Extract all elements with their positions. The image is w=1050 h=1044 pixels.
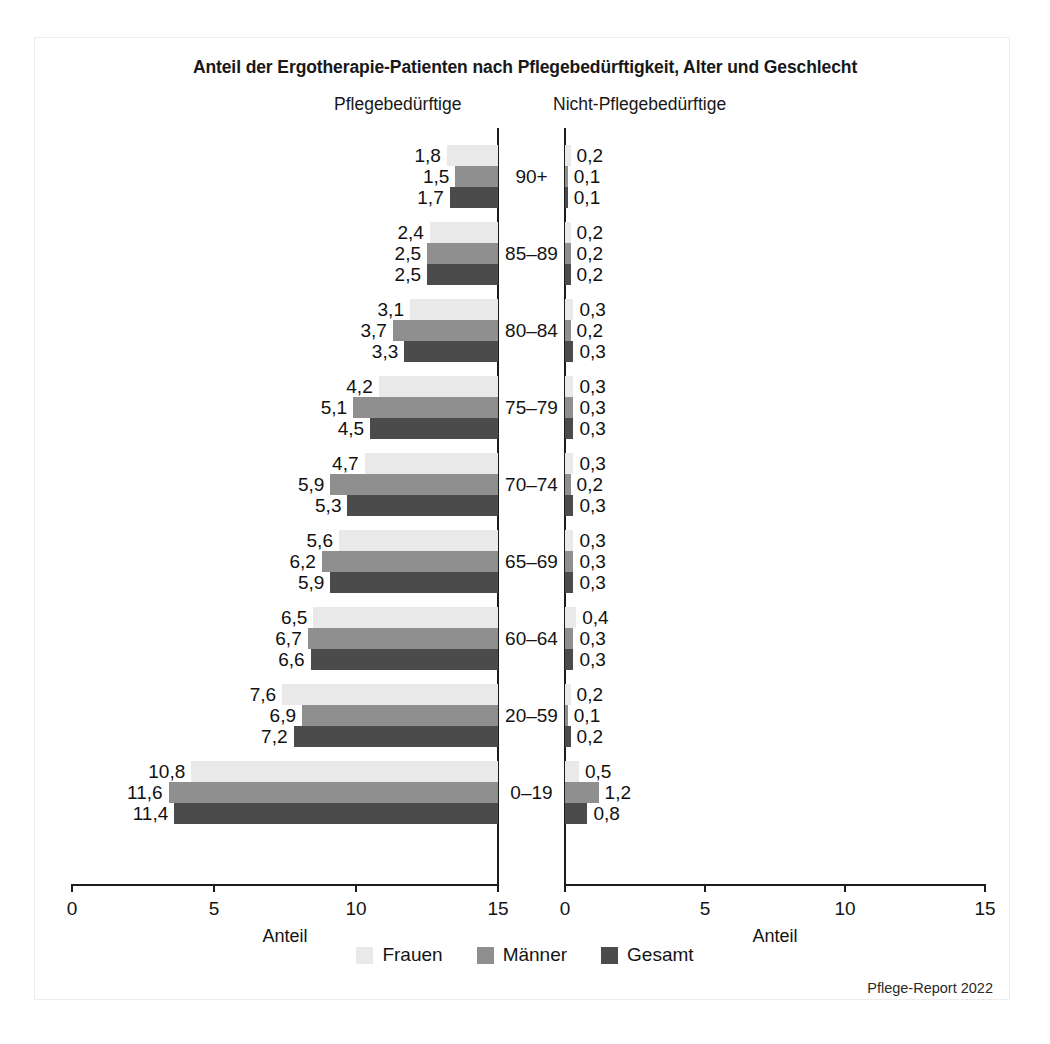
bar-nicht-pflegebeduerftige-maenner-7579 bbox=[565, 397, 573, 418]
bar-pflegebeduerftige-maenner-7579 bbox=[353, 397, 498, 418]
bar-value-label-pflegebeduerftige-frauen-2059: 7,6 bbox=[206, 684, 276, 705]
bar-nicht-pflegebeduerftige-frauen-6569 bbox=[565, 530, 573, 551]
bar-value-label-pflegebeduerftige-frauen-7074: 4,7 bbox=[289, 453, 359, 474]
bar-pflegebeduerftige-frauen-8589 bbox=[430, 222, 498, 243]
legend-label-maenner: Männer bbox=[503, 944, 567, 966]
bar-nicht-pflegebeduerftige-maenner-7074 bbox=[565, 474, 571, 495]
legend-item-frauen: Frauen bbox=[356, 944, 442, 966]
bar-value-label-pflegebeduerftige-gesamt-6064: 6,6 bbox=[235, 649, 305, 670]
x-axis-tick-label-right-10: 10 bbox=[825, 898, 865, 920]
bar-value-label-pflegebeduerftige-gesamt-019: 11,4 bbox=[98, 803, 168, 824]
x-axis-tick-label-right-0: 0 bbox=[545, 898, 585, 920]
bar-pflegebeduerftige-frauen-90+ bbox=[447, 145, 498, 166]
bar-nicht-pflegebeduerftige-gesamt-2059 bbox=[565, 726, 571, 747]
legend-swatch-maenner bbox=[477, 947, 494, 964]
bar-nicht-pflegebeduerftige-frauen-90+ bbox=[565, 145, 571, 166]
bar-value-label-pflegebeduerftige-gesamt-2059: 7,2 bbox=[218, 726, 288, 747]
bar-value-label-pflegebeduerftige-maenner-8589: 2,5 bbox=[351, 243, 421, 264]
bar-value-label-pflegebeduerftige-frauen-6064: 6,5 bbox=[237, 607, 307, 628]
bar-pflegebeduerftige-gesamt-019 bbox=[174, 803, 498, 824]
bar-pflegebeduerftige-gesamt-7579 bbox=[370, 418, 498, 439]
bar-nicht-pflegebeduerftige-maenner-019 bbox=[565, 782, 599, 803]
bar-value-label-nicht-pflegebeduerftige-maenner-90+: 0,1 bbox=[574, 166, 644, 187]
legend-swatch-frauen bbox=[356, 947, 373, 964]
legend-item-maenner: Männer bbox=[477, 944, 567, 966]
bar-value-label-pflegebeduerftige-frauen-019: 10,8 bbox=[115, 761, 185, 782]
bar-pflegebeduerftige-frauen-6569 bbox=[339, 530, 498, 551]
bar-pflegebeduerftige-maenner-6569 bbox=[322, 551, 498, 572]
bar-nicht-pflegebeduerftige-frauen-7579 bbox=[565, 376, 573, 397]
x-axis-tick-left-0 bbox=[71, 884, 72, 892]
bar-nicht-pflegebeduerftige-maenner-90+ bbox=[565, 166, 568, 187]
bar-pflegebeduerftige-maenner-019 bbox=[169, 782, 498, 803]
bar-value-label-pflegebeduerftige-gesamt-90+: 1,7 bbox=[374, 187, 444, 208]
bar-value-label-pflegebeduerftige-maenner-6569: 6,2 bbox=[246, 551, 316, 572]
bar-value-label-pflegebeduerftige-maenner-90+: 1,5 bbox=[379, 166, 449, 187]
bar-pflegebeduerftige-frauen-7074 bbox=[365, 453, 498, 474]
bar-nicht-pflegebeduerftige-gesamt-6569 bbox=[565, 572, 573, 593]
bar-value-label-nicht-pflegebeduerftige-frauen-8589: 0,2 bbox=[577, 222, 647, 243]
bar-pflegebeduerftige-gesamt-8084 bbox=[404, 341, 498, 362]
bar-value-label-pflegebeduerftige-maenner-8084: 3,7 bbox=[317, 320, 387, 341]
bar-value-label-nicht-pflegebeduerftige-maenner-6569: 0,3 bbox=[579, 551, 649, 572]
bar-value-label-nicht-pflegebeduerftige-maenner-6064: 0,3 bbox=[579, 628, 649, 649]
x-axis-tick-label-left-15: 15 bbox=[478, 898, 518, 920]
x-axis-tick-label-right-5: 5 bbox=[685, 898, 725, 920]
bar-value-label-nicht-pflegebeduerftige-frauen-6064: 0,4 bbox=[582, 607, 652, 628]
bar-pflegebeduerftige-frauen-019 bbox=[191, 761, 498, 782]
bar-nicht-pflegebeduerftige-gesamt-8589 bbox=[565, 264, 571, 285]
x-axis-left bbox=[72, 884, 498, 886]
bar-pflegebeduerftige-maenner-6064 bbox=[308, 628, 498, 649]
bar-value-label-nicht-pflegebeduerftige-frauen-7579: 0,3 bbox=[579, 376, 649, 397]
bar-nicht-pflegebeduerftige-frauen-8589 bbox=[565, 222, 571, 243]
bar-value-label-nicht-pflegebeduerftige-maenner-2059: 0,1 bbox=[574, 705, 644, 726]
bar-pflegebeduerftige-gesamt-2059 bbox=[294, 726, 498, 747]
bar-nicht-pflegebeduerftige-frauen-7074 bbox=[565, 453, 573, 474]
bar-value-label-pflegebeduerftige-gesamt-8589: 2,5 bbox=[351, 264, 421, 285]
bar-value-label-pflegebeduerftige-gesamt-6569: 5,9 bbox=[254, 572, 324, 593]
bar-value-label-pflegebeduerftige-maenner-7074: 5,9 bbox=[254, 474, 324, 495]
x-axis-tick-left-10 bbox=[355, 884, 356, 892]
bar-pflegebeduerftige-maenner-7074 bbox=[330, 474, 498, 495]
bar-pflegebeduerftige-gesamt-6064 bbox=[311, 649, 498, 670]
bar-nicht-pflegebeduerftige-gesamt-019 bbox=[565, 803, 587, 824]
bar-value-label-pflegebeduerftige-maenner-2059: 6,9 bbox=[226, 705, 296, 726]
bar-pflegebeduerftige-maenner-90+ bbox=[455, 166, 498, 187]
bar-pflegebeduerftige-maenner-8589 bbox=[427, 243, 498, 264]
bar-pflegebeduerftige-frauen-6064 bbox=[313, 607, 498, 628]
bar-nicht-pflegebeduerftige-maenner-8084 bbox=[565, 320, 571, 341]
chart-page: Anteil der Ergotherapie-Patienten nach P… bbox=[0, 0, 1050, 1044]
bar-value-label-nicht-pflegebeduerftige-gesamt-7579: 0,3 bbox=[579, 418, 649, 439]
bar-pflegebeduerftige-gesamt-8589 bbox=[427, 264, 498, 285]
source-note: Pflege-Report 2022 bbox=[867, 980, 993, 996]
bar-value-label-nicht-pflegebeduerftige-gesamt-8589: 0,2 bbox=[577, 264, 647, 285]
bar-nicht-pflegebeduerftige-frauen-019 bbox=[565, 761, 579, 782]
bar-value-label-nicht-pflegebeduerftige-frauen-90+: 0,2 bbox=[577, 145, 647, 166]
bar-value-label-nicht-pflegebeduerftige-maenner-019: 1,2 bbox=[605, 782, 675, 803]
bar-value-label-nicht-pflegebeduerftige-gesamt-6569: 0,3 bbox=[579, 572, 649, 593]
bar-pflegebeduerftige-frauen-8084 bbox=[410, 299, 498, 320]
x-axis-tick-left-5 bbox=[213, 884, 214, 892]
bar-value-label-nicht-pflegebeduerftige-gesamt-2059: 0,2 bbox=[577, 726, 647, 747]
bar-value-label-nicht-pflegebeduerftige-maenner-7074: 0,2 bbox=[577, 474, 647, 495]
bar-pflegebeduerftige-frauen-2059 bbox=[282, 684, 498, 705]
bar-nicht-pflegebeduerftige-frauen-2059 bbox=[565, 684, 571, 705]
bar-value-label-nicht-pflegebeduerftige-frauen-8084: 0,3 bbox=[579, 299, 649, 320]
plot-area: 151050Anteil051015Anteil90+1,81,51,70,20… bbox=[0, 0, 1050, 1044]
legend-label-gesamt: Gesamt bbox=[627, 944, 694, 966]
x-axis-tick-right-0 bbox=[564, 884, 565, 892]
bar-pflegebeduerftige-gesamt-6569 bbox=[330, 572, 498, 593]
bar-nicht-pflegebeduerftige-gesamt-8084 bbox=[565, 341, 573, 362]
bar-value-label-nicht-pflegebeduerftige-gesamt-8084: 0,3 bbox=[579, 341, 649, 362]
bar-value-label-pflegebeduerftige-maenner-6064: 6,7 bbox=[232, 628, 302, 649]
bar-value-label-nicht-pflegebeduerftige-frauen-6569: 0,3 bbox=[579, 530, 649, 551]
bar-nicht-pflegebeduerftige-gesamt-90+ bbox=[565, 187, 568, 208]
bar-nicht-pflegebeduerftige-gesamt-7074 bbox=[565, 495, 573, 516]
bar-nicht-pflegebeduerftige-maenner-8589 bbox=[565, 243, 571, 264]
bar-pflegebeduerftige-gesamt-7074 bbox=[347, 495, 498, 516]
bar-pflegebeduerftige-maenner-2059 bbox=[302, 705, 498, 726]
bar-nicht-pflegebeduerftige-frauen-6064 bbox=[565, 607, 576, 628]
bar-nicht-pflegebeduerftige-gesamt-6064 bbox=[565, 649, 573, 670]
x-axis-right bbox=[565, 884, 985, 886]
bar-value-label-nicht-pflegebeduerftige-maenner-8589: 0,2 bbox=[577, 243, 647, 264]
